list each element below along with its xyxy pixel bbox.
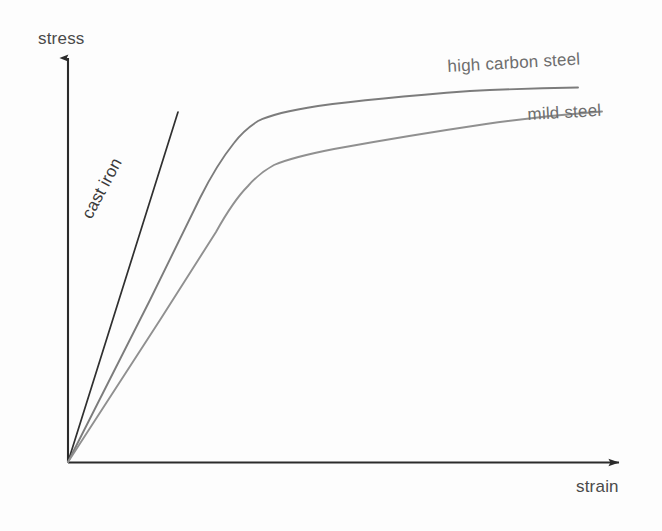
y-axis-label: stress: [38, 29, 85, 49]
curve-high-carbon-steel: [68, 88, 578, 463]
curve-label-mild-steel: mild steel: [527, 101, 602, 125]
x-axis-label: strain: [576, 477, 619, 497]
plot-canvas: [0, 0, 662, 531]
stress-strain-diagram: stress strain high carbon steel mild ste…: [0, 0, 662, 531]
curve-mild-steel: [68, 112, 602, 463]
